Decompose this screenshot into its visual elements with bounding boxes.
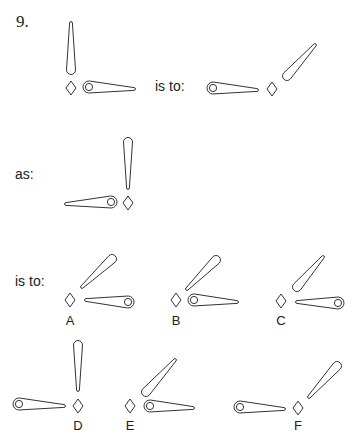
diamond-pivot-icon xyxy=(293,401,303,415)
option-b-figure xyxy=(171,255,238,307)
diamond-pivot-icon xyxy=(66,81,76,95)
diamond-pivot-icon xyxy=(73,399,83,413)
option-a-figure xyxy=(65,254,134,308)
diamond-pivot-icon xyxy=(171,293,181,307)
option-f-figure xyxy=(234,361,342,415)
option-e-figure xyxy=(125,359,194,413)
hand-hole-icon xyxy=(107,198,114,205)
long-hand-icon xyxy=(124,138,133,190)
option-d-figure xyxy=(13,341,83,414)
diamond-pivot-icon xyxy=(276,294,286,308)
diamond-pivot-icon xyxy=(65,293,75,307)
hand-hole-icon xyxy=(124,298,131,305)
stem-2-figure xyxy=(207,44,316,96)
long-hand-icon xyxy=(74,341,83,392)
hand-hole-icon xyxy=(15,400,22,407)
hand-hole-icon xyxy=(85,83,92,90)
hand-hole-icon xyxy=(334,299,341,306)
long-hand-icon xyxy=(67,22,76,75)
long-hand-icon xyxy=(293,256,325,292)
long-hand-icon xyxy=(81,254,117,288)
option-c-figure xyxy=(276,256,344,309)
stem-3-figure xyxy=(65,138,133,211)
long-hand-icon xyxy=(186,255,221,290)
long-hand-icon xyxy=(141,359,176,397)
stem-1-figure xyxy=(66,22,135,95)
diamond-pivot-icon xyxy=(125,399,135,413)
long-hand-icon xyxy=(282,44,316,81)
hand-hole-icon xyxy=(190,296,197,303)
hand-hole-icon xyxy=(146,402,153,409)
figures-canvas xyxy=(0,0,357,436)
diamond-pivot-icon xyxy=(267,82,277,96)
hand-hole-icon xyxy=(236,403,243,410)
hand-hole-icon xyxy=(209,84,216,91)
diamond-pivot-icon xyxy=(123,196,133,210)
long-hand-icon xyxy=(308,361,342,398)
